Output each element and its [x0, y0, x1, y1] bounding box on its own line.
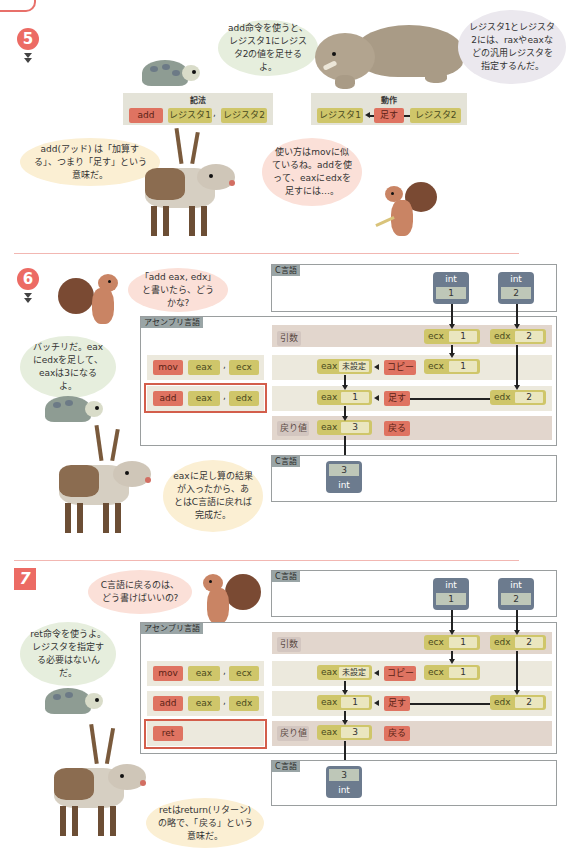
int-variable-1: int 1 — [433, 578, 469, 610]
int-value: 3 — [329, 769, 359, 781]
register-name: eax — [321, 390, 337, 405]
edx-register: edx 2 — [490, 390, 546, 405]
register-name: eax — [321, 695, 337, 710]
int-type-label: int — [498, 272, 534, 286]
register-name: edx — [494, 390, 511, 405]
turtle-speech-bubble: バッチリだ。eaxにedxを足して、eaxは3になるよ。 — [20, 336, 116, 398]
result-int-variable: 3 int — [326, 766, 362, 798]
return-action: 戻る — [384, 421, 410, 436]
register-value: 2 — [515, 697, 543, 708]
register-name: edx — [494, 635, 511, 650]
reindeer-speech-bubble: retはreturn(リターン)の略で、「戻る」という意味だ。 — [146, 798, 264, 848]
register-value: 3 — [341, 422, 369, 433]
operand-separator: , — [223, 360, 226, 370]
int-value: 1 — [436, 287, 466, 299]
reindeer-illustration — [135, 128, 235, 238]
return-action: 戻る — [384, 726, 410, 741]
eax-register: eax 1 — [317, 695, 372, 710]
register-value: 未設定 — [339, 667, 369, 678]
ecx-register: ecx 1 — [424, 635, 480, 650]
arrow-down-icon — [342, 690, 348, 695]
arrow-down-icon — [449, 324, 455, 329]
mov-opcode: mov — [153, 666, 183, 681]
mov-operand-2: ecx — [229, 360, 259, 375]
connector-line — [516, 304, 518, 326]
return-row — [272, 416, 552, 440]
add-operand-1: eax — [188, 696, 220, 711]
notation-separator: , — [213, 108, 216, 118]
arrow-down-icon — [449, 659, 455, 664]
int-variable-2: int 2 — [498, 272, 534, 304]
arrow-down-icon — [514, 690, 520, 695]
register-name: ecx — [428, 359, 444, 374]
register-name: edx — [494, 695, 511, 710]
operand-separator: , — [223, 666, 226, 676]
c-language-frame-bottom: C言語 — [271, 760, 557, 806]
register-name: eax — [321, 420, 337, 435]
eax-register: eax 未設定 — [317, 665, 372, 680]
register-name: ecx — [428, 665, 444, 680]
operand-separator: , — [223, 391, 226, 401]
squirrel-illustration — [58, 268, 128, 328]
register-name: edx — [494, 329, 511, 344]
step-5-badge: 5 — [17, 28, 39, 50]
args-label: 引数 — [277, 637, 301, 652]
connector-line — [516, 345, 518, 388]
eax-register: eax 1 — [317, 390, 372, 405]
args-label: 引数 — [277, 331, 301, 346]
int-value: 1 — [436, 593, 466, 605]
mov-opcode: mov — [153, 360, 183, 375]
notation-arg1-chip: レジスタ1 — [168, 108, 212, 123]
register-value: 1 — [449, 361, 477, 372]
squirrel-speech-bubble: 使い方はmovに似ているね。addを使って、eaxにedxを足すには…。 — [262, 138, 362, 206]
arrow-down-icon — [449, 630, 455, 635]
arrow-down-icon — [342, 720, 348, 725]
ecx-register: ecx 1 — [424, 665, 480, 680]
corner-decoration — [0, 0, 36, 12]
register-value: 2 — [515, 392, 543, 403]
mov-operand-1: eax — [188, 666, 220, 681]
turtle-speech-bubble: add命令を使うと、レジスタ1にレジスタ2の値を足せるよ。 — [218, 20, 318, 76]
squirrel-illustration — [375, 178, 445, 238]
arrow-down-icon — [342, 385, 348, 390]
return-value-label: 戻り値 — [277, 726, 309, 741]
reindeer-illustration — [50, 724, 150, 839]
register-value: 1 — [449, 331, 477, 342]
action-src-chip: レジスタ2 — [410, 108, 461, 123]
ret-opcode: ret — [153, 726, 183, 741]
register-name: eax — [321, 665, 337, 680]
c-language-label: C言語 — [272, 265, 300, 276]
arrow-down-icon — [342, 416, 348, 421]
return-row — [272, 721, 552, 746]
register-value: 3 — [341, 727, 369, 738]
edx-register: edx 2 — [490, 635, 546, 650]
int-type-label: int — [433, 578, 469, 592]
squirrel-speech-bubble: 「add eax, edx」と書いたら、どうかな? — [128, 268, 228, 312]
action-dst-chip: レジスタ1 — [317, 108, 363, 123]
register-name: ecx — [428, 635, 444, 650]
turtle-illustration — [45, 396, 103, 424]
squirrel-speech-bubble: C言語に戻るのは、どう書けばいいの? — [88, 570, 192, 614]
int-value: 2 — [501, 593, 531, 605]
mov-operand-1: eax — [188, 360, 220, 375]
assembly-label: アセンブリ言語 — [141, 623, 203, 634]
step-6-badge: 6 — [17, 268, 39, 290]
copy-action: コピー — [384, 666, 416, 681]
arrow-down-icon — [514, 630, 520, 635]
register-value: 2 — [515, 637, 543, 648]
register-name: eax — [321, 725, 337, 740]
copy-action: コピー — [384, 360, 416, 375]
register-value: 2 — [515, 331, 543, 342]
action-title: 動作 — [311, 94, 467, 105]
result-int-variable: 3 int — [326, 461, 362, 493]
add-action: 足す — [384, 696, 410, 711]
register-name: eax — [321, 359, 337, 374]
connector-line — [410, 398, 490, 400]
section-divider — [14, 560, 519, 561]
register-value: 1 — [341, 392, 369, 403]
int-type-label: int — [498, 578, 534, 592]
ecx-register: ecx 1 — [424, 329, 480, 344]
turtle-illustration — [142, 60, 200, 88]
add-action: 足す — [384, 391, 410, 406]
action-op-chip: 足す — [374, 108, 404, 123]
